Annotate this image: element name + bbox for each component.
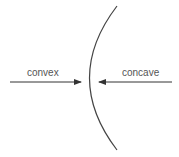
convex-label: convex [27,68,59,78]
concave-label: concave [122,68,159,78]
curved-surface [90,6,118,150]
lens-diagram [0,0,179,157]
